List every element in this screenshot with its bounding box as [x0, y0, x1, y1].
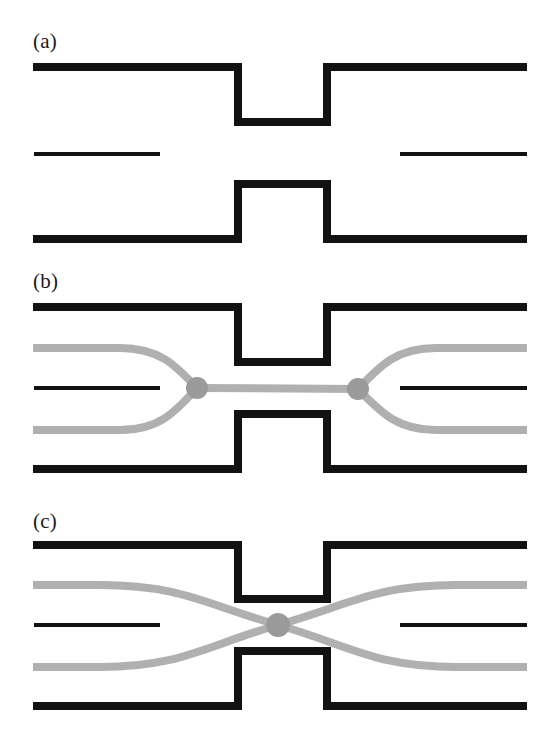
- panel-c-node-center: [266, 613, 290, 637]
- panel-c-lower-wall: [33, 651, 527, 706]
- figure-canvas: [0, 0, 546, 750]
- panel-b-ray-lower-right: [358, 389, 527, 430]
- panel-b-upper-wall: [33, 307, 527, 362]
- panel-c-upper-wall: [33, 545, 527, 599]
- panel-b-ray-upper-left: [33, 348, 197, 388]
- panel-b-node-left: [186, 377, 208, 399]
- panel-b-ray-lower-left: [33, 388, 197, 430]
- panel-a-upper-wall: [33, 67, 527, 122]
- panel-b-group: [33, 307, 527, 469]
- panel-a-group: [33, 67, 527, 239]
- panel-c-group: [33, 545, 527, 706]
- panel-b-node-right: [347, 378, 369, 400]
- panel-b-ray-upper-right: [358, 348, 527, 389]
- panel-a-lower-wall: [33, 184, 527, 239]
- panel-b-lower-wall: [33, 414, 527, 469]
- figure-root: (a) (b) (c): [0, 0, 546, 750]
- panel-b-ray-axis: [197, 388, 358, 389]
